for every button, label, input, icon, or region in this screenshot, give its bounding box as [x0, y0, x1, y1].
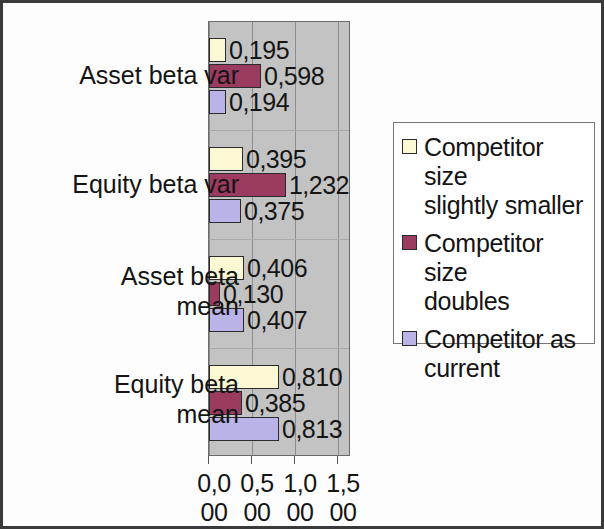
bar-value-label: 0,385	[245, 391, 305, 416]
bar-row: 0,194	[209, 89, 349, 115]
bar-value-label: 0,395	[246, 147, 306, 172]
bar[interactable]	[209, 199, 241, 223]
bar-value-label: 0,813	[282, 417, 342, 442]
bar-value-label: 0,598	[264, 64, 324, 89]
bar[interactable]	[209, 38, 226, 62]
legend-item-competitor-size-slightly-smaller[interactable]: Competitor size slightly smaller	[402, 133, 588, 220]
x-tick-label-3-line2: 00	[315, 498, 371, 527]
category-label-asset-beta-mean: Asset beta mean	[49, 261, 239, 321]
legend: Competitor size slightly smaller Competi…	[393, 122, 595, 344]
category-label-asset-beta-var: Asset beta var	[49, 60, 239, 90]
legend-swatch-icon	[402, 235, 417, 250]
x-tick	[208, 456, 209, 464]
legend-swatch-icon	[402, 139, 417, 154]
chart-figure: 0,195 0,598 0,194 0,395 1,232	[0, 0, 604, 529]
bar-value-label: 1,232	[289, 173, 349, 198]
x-tick	[337, 456, 338, 464]
x-tick-label-3: 1,5 00	[315, 469, 371, 527]
x-tick	[294, 456, 295, 464]
bar-value-label: 0,194	[229, 90, 289, 115]
bar-value-label: 0,406	[247, 256, 307, 281]
bar-value-label: 0,407	[247, 308, 307, 333]
legend-item-competitor-size-doubles[interactable]: Competitor size doubles	[402, 229, 588, 316]
bar[interactable]	[209, 147, 243, 171]
category-label-equity-beta-mean: Equity beta mean	[49, 369, 239, 429]
bar-row: 0,375	[209, 198, 349, 224]
legend-label: Competitor as current	[424, 325, 576, 383]
bar-value-label: 0,195	[229, 38, 289, 63]
legend-swatch-icon	[402, 331, 417, 346]
bar-value-label: 0,810	[282, 365, 342, 390]
x-tick	[251, 456, 252, 464]
x-axis-tick-labels: 0,0 00 0,5 00 1,0 00 1,5 00	[186, 469, 376, 529]
legend-label: Competitor size slightly smaller	[424, 133, 588, 220]
bar-value-label: 0,375	[244, 199, 304, 224]
x-axis-ticks	[208, 456, 350, 464]
legend-label: Competitor size doubles	[424, 229, 588, 316]
x-tick-label-3-line1: 1,5	[315, 469, 371, 498]
legend-item-competitor-as-current[interactable]: Competitor as current	[402, 325, 588, 383]
bar[interactable]	[209, 90, 226, 114]
category-label-equity-beta-var: Equity beta var	[49, 169, 239, 199]
